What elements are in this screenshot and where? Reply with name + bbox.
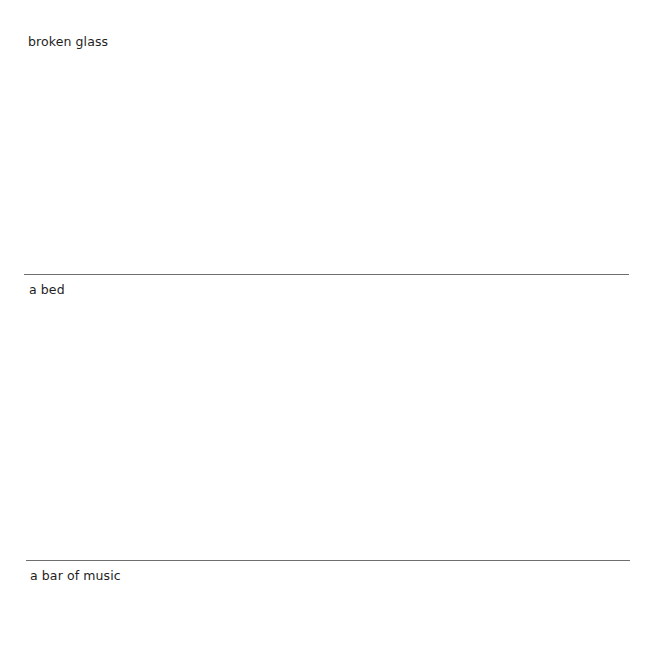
section-label: a bed xyxy=(29,282,65,297)
divider xyxy=(24,274,629,275)
divider xyxy=(26,560,630,561)
section-label: broken glass xyxy=(28,34,108,49)
section-label: a bar of music xyxy=(30,568,121,583)
